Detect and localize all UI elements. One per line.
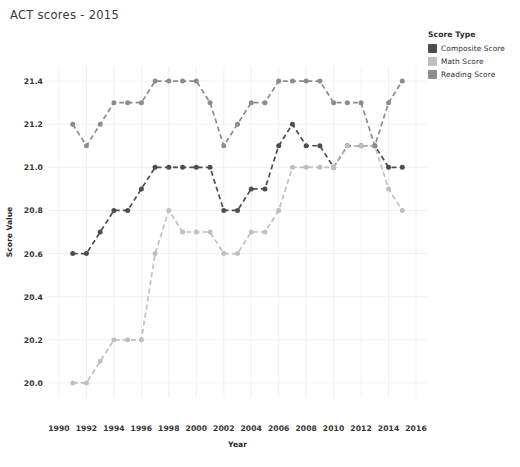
data-point[interactable] bbox=[208, 165, 213, 170]
data-point[interactable] bbox=[249, 230, 254, 235]
x-axis-tick: 1996 bbox=[131, 424, 153, 433]
data-point[interactable] bbox=[262, 100, 267, 105]
data-point[interactable] bbox=[180, 230, 185, 235]
x-axis-tick: 2012 bbox=[350, 424, 372, 433]
data-point[interactable] bbox=[400, 208, 405, 213]
data-point[interactable] bbox=[276, 208, 281, 213]
data-point[interactable] bbox=[194, 165, 199, 170]
data-point[interactable] bbox=[125, 208, 130, 213]
series-line bbox=[73, 124, 403, 253]
data-point[interactable] bbox=[98, 230, 103, 235]
data-point[interactable] bbox=[331, 165, 336, 170]
x-axis-tick: 2000 bbox=[186, 424, 208, 433]
data-point[interactable] bbox=[153, 165, 158, 170]
data-point[interactable] bbox=[70, 251, 75, 256]
data-point[interactable] bbox=[98, 359, 103, 364]
data-point[interactable] bbox=[235, 251, 240, 256]
series-0 bbox=[70, 122, 405, 256]
data-point[interactable] bbox=[194, 79, 199, 84]
data-point[interactable] bbox=[139, 186, 144, 191]
series-1 bbox=[70, 143, 405, 385]
x-axis-tick: 2002 bbox=[213, 424, 235, 433]
data-point[interactable] bbox=[166, 79, 171, 84]
legend-item-1[interactable]: Math Score bbox=[428, 57, 520, 66]
data-point[interactable] bbox=[304, 79, 309, 84]
data-point[interactable] bbox=[125, 337, 130, 342]
legend-item-label: Composite Score bbox=[441, 44, 505, 53]
data-point[interactable] bbox=[276, 143, 281, 148]
data-point[interactable] bbox=[290, 165, 295, 170]
data-point[interactable] bbox=[345, 100, 350, 105]
data-point[interactable] bbox=[386, 100, 391, 105]
data-point[interactable] bbox=[262, 186, 267, 191]
legend-item-label: Math Score bbox=[441, 57, 484, 66]
data-point[interactable] bbox=[249, 186, 254, 191]
data-point[interactable] bbox=[194, 230, 199, 235]
x-axis-tick: 2014 bbox=[378, 424, 400, 433]
data-point[interactable] bbox=[139, 337, 144, 342]
x-axis-tick: 1998 bbox=[158, 424, 180, 433]
data-point[interactable] bbox=[359, 143, 364, 148]
data-point[interactable] bbox=[276, 79, 281, 84]
series-2 bbox=[70, 79, 405, 149]
data-point[interactable] bbox=[70, 380, 75, 385]
data-point[interactable] bbox=[180, 165, 185, 170]
data-point[interactable] bbox=[84, 143, 89, 148]
data-point[interactable] bbox=[208, 100, 213, 105]
data-point[interactable] bbox=[98, 122, 103, 127]
data-point[interactable] bbox=[317, 143, 322, 148]
data-point[interactable] bbox=[139, 100, 144, 105]
series-line bbox=[73, 81, 403, 146]
data-point[interactable] bbox=[235, 122, 240, 127]
data-point[interactable] bbox=[84, 380, 89, 385]
x-axis-tick: 2010 bbox=[323, 424, 345, 433]
chart-page: ACT scores - 2015 20.020.220.420.620.821… bbox=[0, 0, 520, 467]
data-point[interactable] bbox=[166, 208, 171, 213]
line-chart-svg bbox=[48, 66, 427, 398]
data-point[interactable] bbox=[345, 143, 350, 148]
legend-item-2[interactable]: Reading Score bbox=[428, 70, 520, 79]
data-point[interactable] bbox=[304, 143, 309, 148]
data-point[interactable] bbox=[290, 79, 295, 84]
data-point[interactable] bbox=[249, 100, 254, 105]
legend-item-0[interactable]: Composite Score bbox=[428, 44, 520, 53]
data-point[interactable] bbox=[166, 165, 171, 170]
x-axis-tick: 1994 bbox=[103, 424, 125, 433]
data-point[interactable] bbox=[290, 122, 295, 127]
data-point[interactable] bbox=[180, 79, 185, 84]
data-point[interactable] bbox=[235, 208, 240, 213]
data-point[interactable] bbox=[317, 79, 322, 84]
data-point[interactable] bbox=[386, 186, 391, 191]
x-axis-tick: 1992 bbox=[76, 424, 98, 433]
data-point[interactable] bbox=[84, 251, 89, 256]
data-point[interactable] bbox=[262, 230, 267, 235]
data-point[interactable] bbox=[153, 79, 158, 84]
footer-note bbox=[8, 459, 428, 465]
data-point[interactable] bbox=[359, 100, 364, 105]
x-axis-tick: 2008 bbox=[295, 424, 317, 433]
data-point[interactable] bbox=[111, 100, 116, 105]
data-point[interactable] bbox=[111, 337, 116, 342]
data-point[interactable] bbox=[111, 208, 116, 213]
data-point[interactable] bbox=[70, 122, 75, 127]
legend-item-label: Reading Score bbox=[441, 70, 495, 79]
data-point[interactable] bbox=[372, 143, 377, 148]
data-point[interactable] bbox=[125, 100, 130, 105]
data-point[interactable] bbox=[304, 165, 309, 170]
data-point[interactable] bbox=[400, 165, 405, 170]
data-point[interactable] bbox=[400, 79, 405, 84]
y-axis-title: Score Value bbox=[5, 207, 14, 257]
data-point[interactable] bbox=[317, 165, 322, 170]
data-point[interactable] bbox=[208, 230, 213, 235]
data-point[interactable] bbox=[221, 251, 226, 256]
data-point[interactable] bbox=[221, 143, 226, 148]
x-axis-tick: 2004 bbox=[240, 424, 262, 433]
data-point[interactable] bbox=[386, 165, 391, 170]
x-axis-tick: 2016 bbox=[405, 424, 427, 433]
legend-swatch-icon bbox=[428, 44, 437, 53]
legend-title: Score Type bbox=[428, 30, 520, 39]
x-axis-tick: 1990 bbox=[48, 424, 70, 433]
data-point[interactable] bbox=[331, 100, 336, 105]
data-point[interactable] bbox=[221, 208, 226, 213]
data-point[interactable] bbox=[153, 251, 158, 256]
